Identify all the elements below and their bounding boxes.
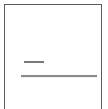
long-rule-shadow xyxy=(21,77,97,78)
screenshot-root xyxy=(0,0,108,109)
bordered-content-panel[interactable] xyxy=(4,4,102,109)
blank-upper-region xyxy=(5,5,101,59)
panel-body xyxy=(5,5,101,109)
short-rule xyxy=(24,61,44,63)
